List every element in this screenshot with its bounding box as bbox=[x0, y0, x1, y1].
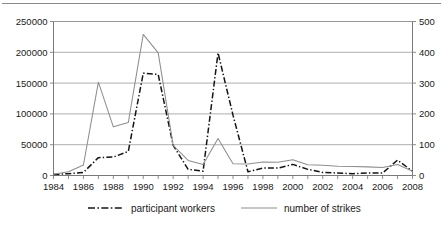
y-axis-right-tick-label: 500 bbox=[419, 16, 435, 27]
y-axis-left-tick-label: 0 bbox=[42, 170, 47, 181]
x-axis-tick-label: 2006 bbox=[372, 181, 393, 192]
x-axis-tick-label: 1984 bbox=[43, 181, 64, 192]
y-axis-left-tick-label: 50000 bbox=[21, 139, 47, 150]
series-line-number-of-strikes bbox=[54, 34, 413, 174]
chart-figure: 0050000100100000200150000300200000400250… bbox=[0, 0, 443, 225]
y-axis-left-tick-label: 100000 bbox=[16, 108, 48, 119]
x-axis-tick-label: 1998 bbox=[252, 181, 273, 192]
x-axis-tick-label: 1992 bbox=[163, 181, 184, 192]
x-axis-tick-label: 1994 bbox=[193, 181, 214, 192]
x-axis-tick-label: 1990 bbox=[133, 181, 154, 192]
x-axis-tick-label: 1996 bbox=[222, 181, 243, 192]
x-axis-tick-label: 2004 bbox=[342, 181, 363, 192]
x-axis-tick-label: 1988 bbox=[103, 181, 124, 192]
legend-label-participant-workers: participant workers bbox=[131, 203, 215, 214]
y-axis-left-tick-label: 150000 bbox=[16, 78, 48, 89]
x-axis-tick-label: 2008 bbox=[402, 181, 423, 192]
x-axis-tick-label: 2002 bbox=[312, 181, 333, 192]
top-horizontal-rule bbox=[2, 3, 441, 4]
y-axis-right-tick-label: 400 bbox=[419, 47, 435, 58]
line-chart: 0050000100100000200150000300200000400250… bbox=[0, 0, 443, 225]
x-axis-tick-label: 1986 bbox=[73, 181, 94, 192]
y-axis-right-tick-label: 0 bbox=[419, 170, 424, 181]
y-axis-left-tick-label: 250000 bbox=[16, 16, 48, 27]
y-axis-right-tick-label: 100 bbox=[419, 139, 435, 150]
x-axis-tick-label: 2000 bbox=[282, 181, 303, 192]
y-axis-left-tick-label: 200000 bbox=[16, 47, 48, 58]
legend-label-number-of-strikes: number of strikes bbox=[284, 203, 361, 214]
y-axis-right-tick-label: 300 bbox=[419, 78, 435, 89]
y-axis-right-tick-label: 200 bbox=[419, 108, 435, 119]
